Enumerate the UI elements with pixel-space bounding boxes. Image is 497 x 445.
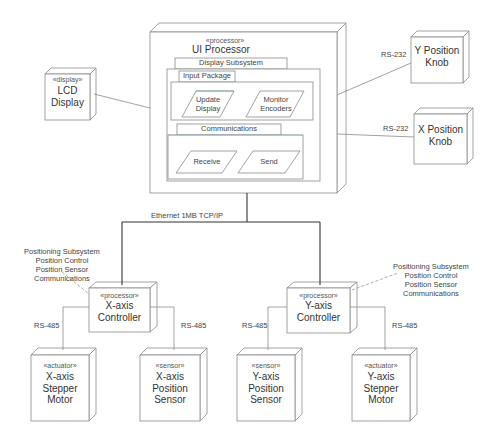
lcd-name: LCD Display [45, 85, 90, 108]
y-knob-connection [337, 63, 411, 95]
y-knob-line2: Knob [411, 57, 463, 69]
communications-label: Communications [177, 125, 281, 134]
ethernet-bus [122, 193, 320, 285]
y-stepper-name: Y-axis Stepper Motor [352, 371, 410, 406]
x-stepper-line3: Motor [31, 394, 89, 406]
y-controller-name: Y-axis Controller [287, 300, 350, 323]
x-controller-name: X-axis Controller [89, 300, 150, 323]
receive-label: Receive [186, 158, 228, 167]
y-stepper-stereotype: «actuator» [352, 362, 410, 370]
rs485-x-sensor-label: RS-485 [181, 322, 206, 331]
x-note-line2: Position Control [24, 256, 100, 265]
y-sensor-line3: Sensor [237, 394, 295, 406]
y-sensor-name: Y-axis Position Sensor [237, 371, 295, 406]
x-stepper-stereotype: «actuator» [31, 362, 89, 370]
y-knob-line1: Y Position [411, 45, 463, 57]
input-package-label: Input Package [179, 72, 235, 81]
y-note-connector [352, 273, 398, 290]
y-note-line3: Position Sensor [393, 280, 469, 289]
update-display-label: Update Display [188, 96, 228, 113]
display-subsystem-label: Display Subsystem [175, 59, 287, 68]
lcd-stereotype: «display» [45, 76, 90, 84]
y-note-line2: Position Control [393, 271, 469, 280]
y-sensor-line2: Position [237, 383, 295, 395]
x-stepper-line1: X-axis [31, 371, 89, 383]
y-controller-line1: Y-axis [287, 300, 350, 312]
y-note-line4: Communications [393, 289, 469, 298]
rs232-y-label: RS-232 [381, 51, 406, 60]
x-note-line3: Position Sensor [24, 265, 100, 274]
y-sensor-connection [268, 307, 287, 350]
lcd-name-line2: Display [45, 97, 90, 109]
y-knob-name: Y Position Knob [411, 45, 463, 68]
x-stepper-connection [63, 307, 89, 350]
x-knob-name: X Position Knob [414, 124, 467, 147]
y-stepper-line1: Y-axis [352, 371, 410, 383]
y-controller-line2: Controller [287, 312, 350, 324]
ui-processor-name: UI Processor [176, 44, 266, 56]
monitor-encoders-line2: Encoders [254, 105, 298, 114]
x-sensor-line3: Sensor [140, 394, 200, 406]
lcd-connection [94, 94, 150, 108]
x-knob-connection [337, 134, 414, 137]
x-knob-line2: Knob [414, 136, 467, 148]
x-sensor-stereotype: «sensor» [140, 362, 200, 370]
rs232-x-label: RS-232 [383, 125, 408, 134]
deployment-diagram: «processor» UI Processor Display Subsyst… [0, 0, 497, 445]
rs485-x-stepper-label: RS-485 [34, 322, 59, 331]
x-controller-line2: Controller [89, 312, 150, 324]
x-note-line1: Positioning Subsystem [24, 247, 100, 256]
y-note-line1: Positioning Subsystem [393, 262, 469, 271]
y-stepper-line2: Stepper [352, 383, 410, 395]
x-note-line4: Communications [24, 274, 100, 283]
x-stepper-line2: Stepper [31, 383, 89, 395]
y-sensor-line1: Y-axis [237, 371, 295, 383]
x-controller-line1: X-axis [89, 300, 150, 312]
y-sensor-stereotype: «sensor» [237, 362, 295, 370]
rs485-y-stepper-label: RS-485 [392, 322, 417, 331]
x-controller-stereotype: «processor» [89, 292, 150, 300]
y-controller-stereotype: «processor» [287, 292, 350, 300]
x-stepper-name: X-axis Stepper Motor [31, 371, 89, 406]
y-stepper-line3: Motor [352, 394, 410, 406]
y-positioning-note: Positioning Subsystem Position Control P… [393, 262, 469, 298]
ethernet-label: Ethernet 1MB TCP/IP [151, 212, 223, 221]
update-display-line2: Display [188, 105, 228, 114]
send-label: Send [248, 158, 290, 167]
rs485-y-sensor-label: RS-485 [242, 322, 267, 331]
x-knob-line1: X Position [414, 124, 467, 136]
x-sensor-name: X-axis Position Sensor [140, 371, 200, 406]
x-positioning-note: Positioning Subsystem Position Control P… [24, 247, 100, 283]
x-sensor-line2: Position [140, 383, 200, 395]
x-sensor-line1: X-axis [140, 371, 200, 383]
lcd-name-line1: LCD [45, 85, 90, 97]
monitor-encoders-label: Monitor Encoders [254, 96, 298, 113]
